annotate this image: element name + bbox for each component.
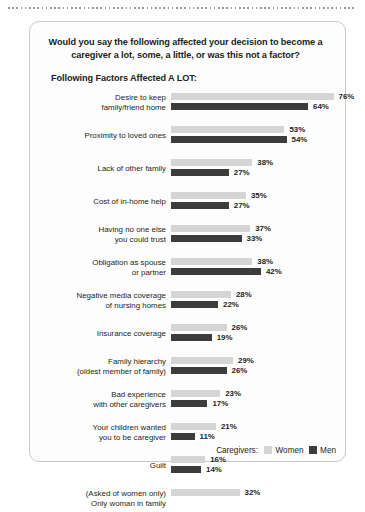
bar-men [171,268,261,275]
bar-line-men: 19% [171,334,335,341]
bar-women [171,357,233,364]
survey-question: Would you say the following affected you… [42,36,329,61]
chart-row-bars: 28%22% [171,289,335,322]
bar-women [171,93,334,100]
chart-row-label-line1: Obligation as spouse [34,258,166,267]
chart-row: Guilt16%14% [34,454,335,487]
chart-row-label: Insurance coverage [34,329,166,338]
chart-row-label: Your children wantedyou to be caregiver [34,423,166,442]
bar-line-women: 16% [171,456,335,463]
chart-row-label-line1: Bad experience [34,390,166,399]
bar-value-women: 38% [257,158,273,167]
bar-value-men: 11% [200,432,215,441]
chart-row: Insurance coverage26%19% [34,322,335,355]
chart-row-bars: 37%33% [171,223,335,256]
bar-value-men: 26% [232,366,248,375]
bar-women [171,126,284,133]
bar-line-men: 27% [171,169,335,176]
chart-subtitle: Following Factors Affected A LOT: [51,73,335,83]
chart-row-label: Cost of in-home help [34,197,166,206]
chart-row-bars: 26%19% [171,322,335,355]
chart-row: Bad experiencewith other caregivers23%17… [34,388,335,421]
chart-row-label-line1: Having no one else [34,225,166,234]
chart-row: Having no one elseyou could trust37%33% [34,223,335,256]
bar-value-women: 29% [238,356,254,365]
bar-line-women: 32% [171,489,335,496]
bar-value-women: 23% [225,389,241,398]
bar-value-women: 21% [221,422,237,431]
bar-value-men: 33% [247,234,263,243]
chart-row-bars: 16%14% [171,454,335,487]
chart-row: Family hierarchy(oldest member of family… [34,355,335,388]
chart-row: Desire to keepfamily/friend home76%64% [34,91,335,124]
chart-row-bars: 35%27% [171,190,335,223]
bar-value-men: 42% [266,267,282,276]
bar-value-women: 28% [236,290,252,299]
chart-row-label-line1: Negative media coverage [34,291,166,300]
bar-women [171,489,240,496]
bar-men [171,169,229,176]
chart-row-bars: 32% [171,487,335,512]
chart-row-label-line2: you could trust [34,235,166,244]
chart-row-label: Negative media coverageof nursing homes [34,291,166,310]
legend-item-women: Women [264,446,304,455]
bar-women [171,192,246,199]
bar-line-men: 17% [171,400,335,407]
legend-swatch-men-icon [309,446,317,454]
bar-line-men: 33% [171,235,335,242]
bar-men [171,301,218,308]
chart-row-label-line1: Desire to keep [34,93,166,102]
bar-line-women: 28% [171,291,335,298]
chart-row-label: Bad experiencewith other caregivers [34,390,166,409]
bar-women [171,423,216,430]
chart-row-label-line1: Your children wanted [34,423,166,432]
chart-row-bars: 23%17% [171,388,335,421]
bar-line-women: 38% [171,258,335,265]
bar-value-women: 37% [255,224,271,233]
chart-row-label-line1: Guilt [34,461,166,470]
bar-line-women: 26% [171,324,335,331]
bar-line-men: 22% [171,301,335,308]
chart-row-label-line2: (oldest member of family) [34,367,166,376]
chart-row-label-line2: you to be caregiver [34,433,166,442]
chart-card: Would you say the following affected you… [29,21,346,462]
chart-row-label: (Asked of women only)Only woman in famil… [34,489,166,508]
bar-value-men: 22% [223,300,239,309]
bar-value-men: 27% [234,201,250,210]
bar-women [171,159,252,166]
bar-line-women: 38% [171,159,335,166]
bar-line-women: 37% [171,225,335,232]
chart-row: Lack of other family38%27% [34,157,335,190]
bar-value-women: 35% [251,191,267,200]
chart-row-label-line2: of nursing homes [34,301,166,310]
chart-row-label-line2: with other caregivers [34,400,166,409]
chart-row-label-line2: family/friend home [34,103,166,112]
chart-row-label-line2: or partner [34,268,166,277]
chart-row-label-line1: Family hierarchy [34,357,166,366]
bar-line-women: 21% [171,423,335,430]
bar-women [171,291,231,298]
chart-row: Obligation as spouseor partner38%42% [34,256,335,289]
chart-row-label: Family hierarchy(oldest member of family… [34,357,166,376]
chart-row: (Asked of women only)Only woman in famil… [34,487,335,512]
bar-men [171,334,212,341]
chart-row-label: Having no one elseyou could trust [34,225,166,244]
bar-men [171,202,229,209]
bar-women [171,258,252,265]
chart-legend: Caregivers: Women Men [30,443,336,457]
bar-value-men: 19% [217,333,233,342]
bar-line-men: 64% [171,103,335,110]
chart-row-label-line1: Proximity to loved ones [34,131,166,140]
chart-row-label-line2: Only woman in family [34,499,166,508]
chart-row-label: Proximity to loved ones [34,131,166,140]
chart-row: Proximity to loved ones53%54% [34,124,335,157]
bar-value-women: 32% [245,488,261,497]
bar-women [171,456,205,463]
legend-item-men: Men [309,446,336,455]
top-dotted-divider [8,7,357,9]
bar-line-men: 11% [171,433,335,440]
bar-value-men: 27% [234,168,250,177]
bar-value-women: 26% [232,323,248,332]
bar-value-men: 64% [313,102,329,111]
